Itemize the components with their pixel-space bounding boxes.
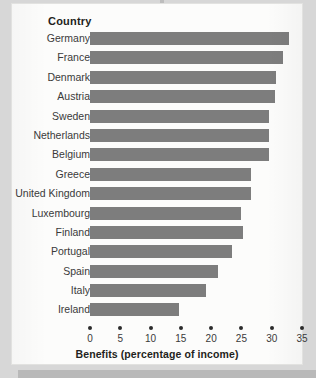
x-axis-tick-label: 30 — [266, 333, 277, 344]
x-axis-tick-label: 25 — [236, 333, 247, 344]
page-edge-shadow — [18, 370, 316, 378]
bar-row: Portugal — [12, 243, 302, 262]
bar — [90, 32, 289, 45]
bar-row: Ireland — [12, 301, 302, 320]
bar — [90, 148, 269, 161]
bar-track — [90, 49, 302, 68]
bar-category-label: Ireland — [0, 303, 90, 315]
bar-track — [90, 166, 302, 185]
bar-row: Italy — [12, 282, 302, 301]
bar — [90, 187, 251, 200]
x-axis-tick-label: 0 — [87, 333, 93, 344]
bar-category-label: Greece — [0, 168, 90, 180]
bar-row: Spain — [12, 263, 302, 282]
bar-category-label: France — [0, 51, 90, 63]
x-axis-tick-label: 15 — [175, 333, 186, 344]
bar-row: Netherlands — [12, 127, 302, 146]
bar — [90, 226, 243, 239]
bar-row: Sweden — [12, 108, 302, 127]
bar — [90, 265, 218, 278]
bar-track — [90, 108, 302, 127]
bar-category-label: Portugal — [0, 245, 90, 257]
bar-row: Luxembourg — [12, 205, 302, 224]
bar-rows: GermanyFranceDenmarkAustriaSwedenNetherl… — [12, 30, 302, 321]
x-axis-tick-label: 20 — [206, 333, 217, 344]
bar-category-label: Spain — [0, 265, 90, 277]
bar-track — [90, 243, 302, 262]
bar-category-label: Denmark — [0, 71, 90, 83]
x-axis-tick — [300, 326, 304, 330]
bar-track — [90, 88, 302, 107]
x-axis-tick — [270, 326, 274, 330]
bar-track — [90, 224, 302, 243]
bar — [90, 90, 275, 103]
x-axis-tick — [149, 326, 153, 330]
bar-track — [90, 146, 302, 165]
bar-category-label: Luxembourg — [0, 207, 90, 219]
x-axis-title: Benefits (percentage of income) — [12, 348, 302, 360]
x-axis-tick — [88, 326, 92, 330]
x-axis-tick — [209, 326, 213, 330]
bar — [90, 207, 241, 220]
x-axis-tick-label: 10 — [145, 333, 156, 344]
x-axis-tick-label: 5 — [118, 333, 124, 344]
bar-category-label: Austria — [0, 90, 90, 102]
x-axis-tick — [179, 326, 183, 330]
bar-category-label: Netherlands — [0, 129, 90, 141]
bar-category-label: Finland — [0, 226, 90, 238]
bar-row: Greece — [12, 166, 302, 185]
bar-track — [90, 205, 302, 224]
bar — [90, 284, 206, 297]
bar-category-label: Germany — [0, 32, 90, 44]
bar-chart: Country GermanyFranceDenmarkAustriaSwede… — [12, 4, 302, 364]
bar — [90, 129, 269, 142]
bar-track — [90, 263, 302, 282]
page-sheet: Country GermanyFranceDenmarkAustriaSwede… — [12, 4, 302, 364]
bar-track — [90, 127, 302, 146]
bar-row: France — [12, 49, 302, 68]
country-column-header: Country — [48, 15, 92, 27]
bar — [90, 51, 283, 64]
bar-track — [90, 301, 302, 320]
bar-track — [90, 69, 302, 88]
bar-row: Denmark — [12, 69, 302, 88]
bar — [90, 303, 179, 316]
bar-track — [90, 30, 302, 49]
page-inner: Country GermanyFranceDenmarkAustriaSwede… — [12, 4, 302, 364]
bar-category-label: Italy — [0, 284, 90, 296]
bar — [90, 71, 276, 84]
x-axis-tick — [118, 326, 122, 330]
bar-category-label: United Kingdom — [0, 187, 90, 199]
x-axis-tick-label: 35 — [296, 333, 307, 344]
bar-category-label: Belgium — [0, 148, 90, 160]
bar-track — [90, 185, 302, 204]
bar-row: Germany — [12, 30, 302, 49]
bar-row: United Kingdom — [12, 185, 302, 204]
bar — [90, 168, 251, 181]
bar-row: Austria — [12, 88, 302, 107]
screenshot-root: Country GermanyFranceDenmarkAustriaSwede… — [0, 0, 316, 378]
x-axis-tick — [239, 326, 243, 330]
bar-category-label: Sweden — [0, 110, 90, 122]
bar — [90, 245, 232, 258]
bar-track — [90, 282, 302, 301]
bar-row: Finland — [12, 224, 302, 243]
bar — [90, 110, 269, 123]
bar-row: Belgium — [12, 146, 302, 165]
